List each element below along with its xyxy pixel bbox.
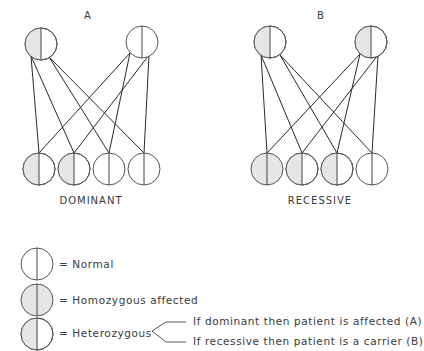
- branch-recessive-text: If recessive then patient is a carrier (…: [193, 335, 424, 347]
- child-a-1: [23, 153, 55, 185]
- branch-bracket: [152, 322, 186, 342]
- panel-label-a: A: [84, 10, 92, 21]
- child-b-4: [356, 153, 388, 185]
- legend: = Normal = Homozygous affected = Heteroz…: [21, 248, 424, 350]
- parent-b-right: [355, 26, 387, 58]
- branch-dominant-text: If dominant then patient is affected (A): [193, 315, 422, 327]
- lines-b: [261, 54, 378, 153]
- legend-homozygous-text: = Homozygous affected: [59, 294, 198, 306]
- parent-b-left: [254, 26, 286, 58]
- parent-a-left: [25, 28, 57, 60]
- panel-dominant: A: [23, 10, 160, 206]
- child-a-2: [58, 153, 90, 185]
- child-a-4: [128, 153, 160, 185]
- child-b-3: [321, 153, 353, 185]
- caption-recessive: RECESSIVE: [288, 195, 352, 206]
- pedigree-diagram: A: [0, 0, 424, 351]
- child-b-2: [286, 153, 318, 185]
- legend-heterozygous-symbol: [21, 318, 53, 350]
- caption-dominant: DOMINANT: [59, 195, 122, 206]
- legend-heterozygous-text: = Heterozygous: [59, 327, 152, 339]
- legend-homozygous-symbol: [21, 284, 53, 316]
- lines-a: [31, 53, 149, 153]
- panel-label-b: B: [317, 10, 325, 21]
- legend-normal-text: = Normal: [59, 258, 114, 270]
- legend-normal-symbol: [21, 248, 53, 280]
- panel-recessive: B: [251, 10, 388, 206]
- parent-a-right: [126, 26, 158, 58]
- child-a-3: [93, 153, 125, 185]
- child-b-1: [251, 153, 283, 185]
